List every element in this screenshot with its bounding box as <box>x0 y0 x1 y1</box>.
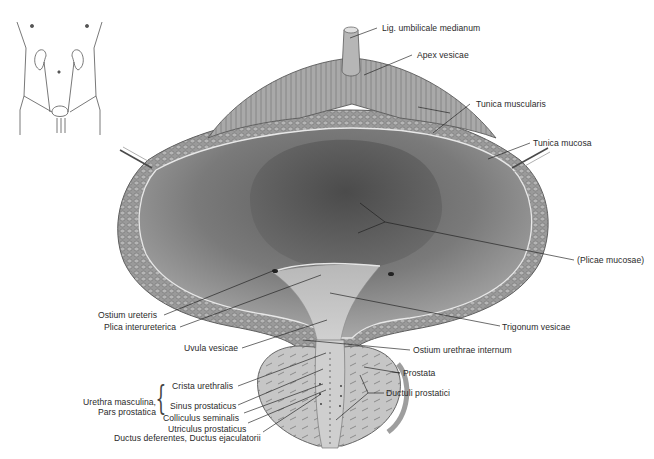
ostium-ureteris-right <box>388 272 394 276</box>
label-crista-urethralis: Crista urethralis <box>172 381 233 391</box>
label-plica-interureterica: Plica interureterica <box>104 322 176 332</box>
lig-umbilicale-shape <box>342 30 360 76</box>
label-urethra-masculina-line2: Pars prostatica <box>82 407 156 417</box>
label-tunica-mucosa: Tunica mucosa <box>533 138 592 148</box>
bladder-illustration <box>0 0 654 459</box>
label-urethra-masculina: Urethra masculina, Pars prostatica <box>82 397 156 417</box>
posterior-dome <box>250 140 442 270</box>
label-tunica-muscularis: Tunica muscularis <box>476 99 546 109</box>
prostate <box>258 340 407 448</box>
label-lig-umbilicale-medianum: Lig. umbilicale medianum <box>382 23 480 33</box>
grouping-brace: { <box>155 380 166 414</box>
label-prostata: Prostata <box>403 368 435 378</box>
label-apex-vesicae: Apex vesicae <box>417 50 469 60</box>
anatomy-figure: Lig. umbilicale medianum Apex vesicae Tu… <box>0 0 654 459</box>
label-sinus-prostaticus: Sinus prostaticus <box>170 401 236 411</box>
label-ostium-ureteris: Ostium ureteris <box>98 310 157 320</box>
label-uvula-vesicae: Uvula vesicae <box>184 343 238 353</box>
label-ostium-urethrae-internum: Ostium urethrae internum <box>413 345 512 355</box>
label-ductus-deferentes-ejaculatorii: Ductus deferentes, Ductus ejaculatorii <box>114 433 261 443</box>
label-urethra-masculina-line1: Urethra masculina, <box>82 397 156 407</box>
label-trigonum-vesicae: Trigonum vesicae <box>502 322 570 332</box>
orientation-inset <box>17 22 102 135</box>
label-plicae-mucosae: (Plicae mucosae) <box>577 255 644 265</box>
label-colliculus-seminalis: Colliculus seminalis <box>163 413 239 423</box>
label-ductuli-prostatici: Ductuli prostatici <box>386 388 450 398</box>
